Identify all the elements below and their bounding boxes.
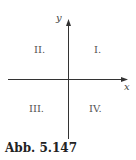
x-axis-label: x bbox=[124, 81, 130, 92]
coordinate-axes bbox=[0, 0, 136, 160]
quadrant-1-label: I. bbox=[94, 44, 101, 55]
quadrant-3-label: III. bbox=[29, 103, 44, 114]
quadrant-4-label: IV. bbox=[89, 103, 102, 114]
y-axis-label: y bbox=[56, 12, 62, 23]
figure-caption: Abb. 5.147 bbox=[5, 141, 77, 155]
quadrant-2-label: II. bbox=[34, 44, 45, 55]
